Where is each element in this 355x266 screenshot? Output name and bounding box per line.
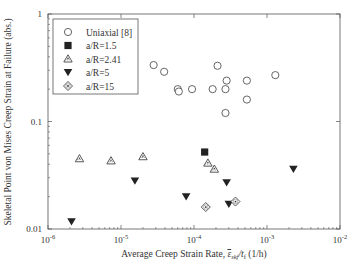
data-point: [201, 148, 208, 155]
data-point: [107, 157, 115, 164]
data-point: [201, 203, 210, 212]
legend-label: Uniaxial [8]: [86, 28, 132, 38]
series-uniaxial-8-: [150, 61, 279, 116]
data-point: [289, 166, 298, 173]
data-point: [139, 153, 147, 160]
data-point: [209, 86, 216, 93]
data-point: [231, 197, 240, 206]
x-tick-label: 10-6: [41, 233, 56, 245]
scatter-chart: 10-610-510-410-310-20.010.11 Uniaxial [8…: [0, 0, 355, 266]
data-point: [161, 68, 168, 75]
data-point: [150, 61, 157, 68]
data-point: [243, 77, 250, 84]
data-point: [243, 96, 250, 103]
data-point: [214, 62, 221, 69]
data-point: [188, 86, 195, 93]
legend-label: a/R=2.41: [86, 55, 121, 65]
x-axis-title: Average Creep Strain Rate, εskf/tf (1/h): [121, 249, 266, 260]
data-point: [75, 155, 83, 162]
data-point: [222, 86, 229, 93]
y-tick-label: 0.01: [26, 224, 42, 234]
x-tick-label: 10-2: [333, 233, 347, 245]
series-a-r-1-5: [201, 148, 208, 155]
y-tick-label: 1: [38, 9, 43, 19]
data-point: [67, 218, 76, 225]
data-point: [182, 193, 191, 200]
x-tick-label: 10-3: [260, 233, 274, 245]
data-point: [222, 179, 231, 186]
data-point: [223, 77, 230, 84]
x-tick-label: 10-5: [114, 233, 128, 245]
series-a-r-15: [201, 197, 240, 211]
data-point: [175, 88, 182, 95]
y-axis-title: Skeletal Point von Mises Creep Strain at…: [3, 18, 14, 225]
x-tick-label: 10-4: [187, 233, 202, 245]
legend: Uniaxial [8]a/R=1.5a/R=2.41a/R=5a/R=15: [53, 19, 138, 94]
series-a-r-2-41: [75, 153, 218, 173]
legend-label: a/R=1.5: [86, 41, 117, 51]
data-point: [272, 72, 279, 79]
legend-label: a/R=15: [86, 82, 114, 92]
data-point: [222, 109, 229, 116]
data-point: [131, 178, 140, 185]
legend-marker: [64, 28, 71, 35]
y-tick-label: 0.1: [31, 117, 42, 127]
data-point: [204, 159, 212, 166]
legend-label: a/R=5: [86, 68, 110, 78]
legend-marker: [64, 42, 71, 49]
series-a-r-5: [67, 166, 297, 226]
